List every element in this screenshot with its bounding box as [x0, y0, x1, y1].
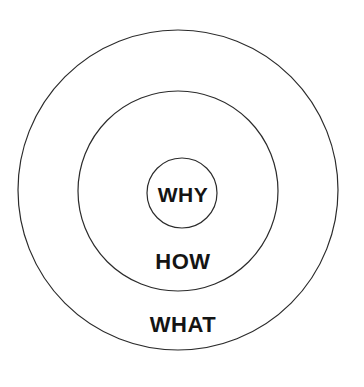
ring-label-what: WHAT: [150, 312, 216, 337]
golden-circle-canvas: WHY HOW WHAT: [0, 0, 364, 387]
golden-circle-diagram: WHY HOW WHAT: [0, 0, 364, 387]
ring-label-why: WHY: [158, 183, 209, 206]
ring-label-how: HOW: [155, 249, 210, 274]
